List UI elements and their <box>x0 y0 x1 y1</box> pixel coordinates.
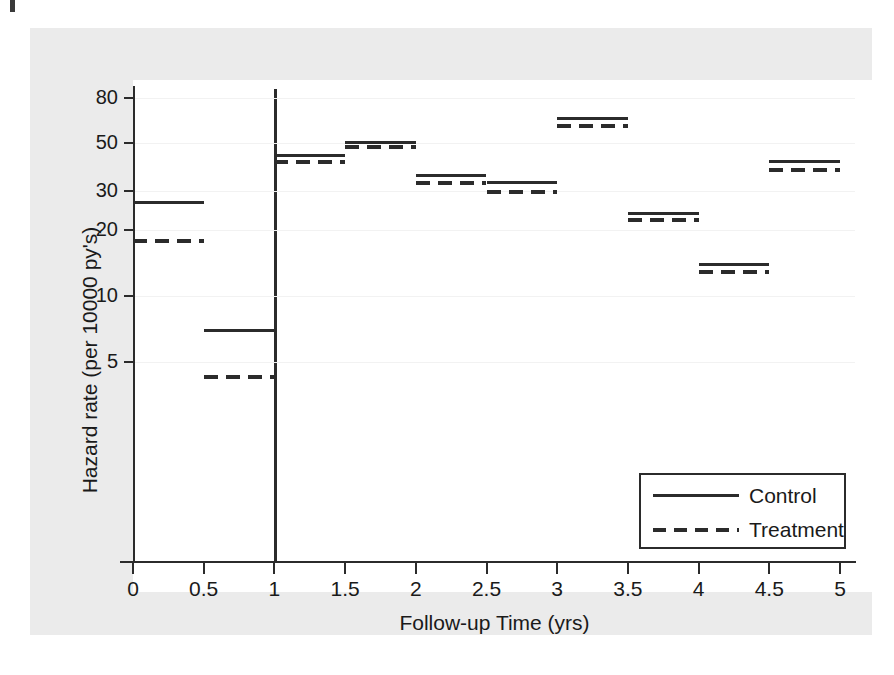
y-axis-title: Hazard rate (per 10000 py's) <box>78 145 102 575</box>
page-edge-artifact <box>10 0 15 12</box>
plot-area-background <box>133 80 885 592</box>
figure-panel: Hazard rate (per 10000 py's) <box>30 28 872 635</box>
